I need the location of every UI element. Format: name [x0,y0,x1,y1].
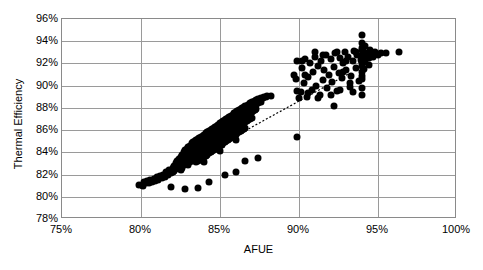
gridline-y-84 [62,152,455,153]
gridline-y-86 [62,130,455,131]
data-point [294,88,301,95]
data-point [299,58,306,65]
data-point [291,71,298,78]
data-point [267,92,274,99]
data-point [232,169,239,176]
plot-area [61,18,456,218]
data-point [254,154,261,161]
x-tick-label-80: 80% [110,224,170,235]
data-point [365,61,372,68]
data-point [327,91,334,98]
gridline-y-80 [62,197,455,198]
y-tick-label-96: 96% [2,13,58,24]
gridline-y-90 [62,86,455,87]
data-point [302,71,309,78]
x-tick-label-75: 75% [31,224,91,235]
data-point [359,72,366,79]
gridline-y-92 [62,63,455,64]
data-point [340,69,347,76]
gridline-y-82 [62,175,455,176]
data-point [242,124,249,131]
data-point [221,171,228,178]
data-point [330,102,337,109]
gridline-x-90 [299,19,300,217]
y-tick-label-90: 90% [2,79,58,90]
data-point [313,82,320,89]
x-tick-label-90: 90% [268,224,328,235]
data-point [319,77,326,84]
y-tick-label-78: 78% [2,213,58,224]
data-point [305,90,312,97]
data-point [348,72,355,79]
x-tick-label-100: 100% [426,224,483,235]
x-axis-title: AFUE [61,243,456,255]
data-point [217,148,224,155]
data-point [346,80,353,87]
data-point [311,49,318,56]
data-point [395,49,402,56]
y-tick-label-88: 88% [2,101,58,112]
data-point [205,179,212,186]
data-point [359,31,366,38]
data-point [343,58,350,65]
y-tick-label-84: 84% [2,146,58,157]
y-tick-label-82: 82% [2,168,58,179]
data-point [359,91,366,98]
data-point [319,51,326,58]
gridline-y-94 [62,41,455,42]
data-point [248,114,255,121]
y-tick-label-94: 94% [2,35,58,46]
data-point [294,133,301,140]
gridline-x-95 [378,19,379,217]
data-point [318,58,325,65]
x-tick-label-95: 95% [347,224,407,235]
data-point [242,158,249,165]
y-tick-label-92: 92% [2,57,58,68]
data-point [194,184,201,191]
data-point [333,49,340,56]
x-axis-tick-labels: 75%80%85%90%95%100% [0,224,483,240]
scatter-chart: Thermal Efficiency 78%80%82%84%86%88%90%… [0,0,483,270]
data-point [349,89,356,96]
x-tick-label-85: 85% [189,224,249,235]
y-tick-label-86: 86% [2,124,58,135]
data-point [352,49,359,56]
data-point [326,71,333,78]
y-tick-label-80: 80% [2,190,58,201]
data-point [382,50,389,57]
data-point [329,79,336,86]
data-point [310,69,317,76]
data-point [307,60,314,67]
data-point [300,80,307,87]
data-point [201,159,208,166]
data-point [232,137,239,144]
data-point [314,94,321,101]
data-point [168,183,175,190]
data-point [182,186,189,193]
data-point [337,87,344,94]
